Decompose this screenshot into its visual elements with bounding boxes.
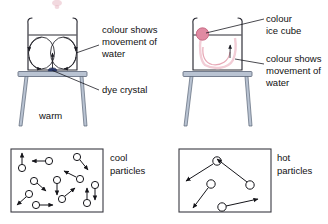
anno-line: cool	[110, 152, 127, 163]
particle	[246, 181, 254, 189]
hot-particles-label: hot particles	[277, 152, 313, 176]
particle	[218, 203, 226, 211]
particle	[32, 201, 39, 208]
hot-particles-box: hot particles	[179, 149, 313, 212]
anno-line: hot	[277, 152, 291, 163]
particle	[91, 181, 98, 188]
particle	[73, 153, 80, 160]
annotation-colour-shows-movement-right: colour shows movement of water	[265, 53, 322, 88]
particle	[45, 157, 52, 164]
anno-line: ice cube	[266, 25, 301, 36]
particle-box-outline	[179, 149, 271, 212]
particle	[18, 164, 25, 171]
anno-line: particles	[277, 165, 313, 176]
particle	[53, 176, 60, 183]
cool-particles-box: cool particles	[11, 149, 146, 212]
cool-particles-label: cool particles	[110, 152, 146, 176]
particle	[25, 190, 32, 197]
anno-line: colour shows	[102, 24, 158, 35]
anno-line: dye crystal	[102, 84, 147, 95]
annotation-colour-shows-movement-left: colour shows movement of water	[101, 24, 158, 59]
anno-line: water	[101, 48, 125, 59]
diagram-canvas: warm colour shows movement of water dye …	[0, 0, 328, 224]
particle	[83, 199, 90, 206]
annotation-dye-crystal: dye crystal	[102, 84, 147, 95]
cold-beaker-experiment: colour ice cube colour shows movement of…	[183, 13, 322, 126]
colour-ice-cube	[196, 28, 208, 40]
convection-loops-left	[29, 37, 77, 69]
leader-colour-shows-left	[76, 45, 99, 53]
tripod-stand-right	[183, 72, 252, 127]
annotation-colour-ice-cube: colour ice cube	[266, 13, 301, 36]
anno-line: water	[265, 77, 289, 88]
warm-beaker-experiment: warm colour shows movement of water dye …	[18, 18, 158, 126]
particle	[30, 177, 37, 184]
particle	[76, 175, 83, 182]
particle	[58, 195, 65, 202]
leader-colour-ice-cube	[206, 19, 264, 33]
convection-diagram: warm colour shows movement of water dye …	[0, 0, 328, 224]
anno-line: colour	[266, 13, 292, 24]
anno-line: colour shows	[266, 53, 322, 64]
scan-smudge	[52, 0, 62, 9]
leader-colour-shows-right	[235, 59, 264, 64]
anno-line: particles	[110, 165, 146, 176]
particle	[207, 180, 215, 188]
anno-line: movement of	[266, 65, 321, 76]
warm-label: warm	[38, 110, 62, 121]
anno-line: movement of	[102, 36, 157, 47]
